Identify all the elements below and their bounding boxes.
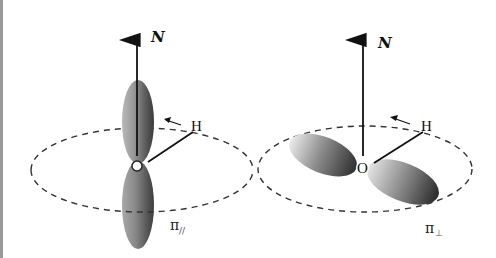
oxygen-atom-circle xyxy=(132,161,142,171)
right-p-lobe xyxy=(361,150,446,214)
orbital-subscript-parallel: // xyxy=(179,226,186,236)
orbital-diagram: N H π // O N H π ⊥ xyxy=(0,0,496,258)
lower-p-lobe xyxy=(122,161,154,249)
rotation-arrow-head-icon xyxy=(164,117,171,123)
axis-label-N: N xyxy=(150,28,166,46)
left-p-lobe xyxy=(283,125,363,185)
oh-bond-line xyxy=(374,132,423,163)
orbital-label-pi: π xyxy=(170,217,179,233)
atom-label-H: H xyxy=(191,118,202,134)
atom-label-H: H xyxy=(421,118,432,134)
left-panel-pi-parallel: N H π // xyxy=(31,28,253,249)
right-panel-pi-perpendicular: O N H π ⊥ xyxy=(258,34,472,238)
oh-bond-line xyxy=(148,132,193,162)
atom-label-O: O xyxy=(357,160,368,176)
axis-label-N: N xyxy=(377,34,393,52)
upper-p-lobe xyxy=(122,80,154,164)
rotation-arrow-head-icon xyxy=(390,115,398,121)
orbital-subscript-perpendicular: ⊥ xyxy=(435,228,443,238)
orbital-label-pi: π xyxy=(425,220,434,236)
